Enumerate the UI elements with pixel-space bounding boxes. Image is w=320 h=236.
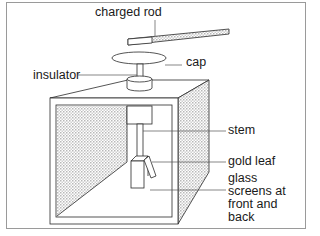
label-glass-screens: glass screens at front and back	[228, 172, 286, 224]
label-glass-line4: back	[228, 211, 286, 224]
label-gold-leaf: gold leaf	[228, 155, 275, 168]
box-interior	[56, 105, 172, 217]
box-right-face	[178, 80, 209, 224]
cap	[112, 52, 182, 65]
lower-insulator	[127, 106, 152, 124]
label-charged-rod: charged rod	[95, 6, 162, 19]
label-insulator: insulator	[33, 69, 80, 82]
charged-rod	[128, 20, 229, 45]
label-stem: stem	[228, 124, 255, 137]
label-cap: cap	[186, 56, 206, 69]
